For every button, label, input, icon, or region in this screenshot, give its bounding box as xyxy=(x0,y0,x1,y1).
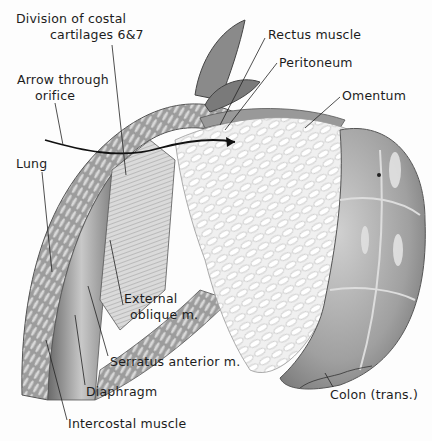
label-division-costal-line2: cartilages 6&7 xyxy=(50,28,144,42)
label-diaphragm: Diaphragm xyxy=(86,385,157,399)
label-peritoneum: Peritoneum xyxy=(279,56,353,70)
label-external-oblique-line1: External xyxy=(124,292,177,306)
label-arrow-orifice-line2: orifice xyxy=(35,89,75,103)
label-rectus-muscle: Rectus muscle xyxy=(268,28,361,42)
illustration-artwork xyxy=(0,0,432,441)
label-colon: Colon (trans.) xyxy=(330,388,418,402)
label-omentum: Omentum xyxy=(342,89,406,103)
label-external-oblique-line2: oblique m. xyxy=(130,308,198,322)
label-lung: Lung xyxy=(16,157,47,171)
anatomical-figure: Division of costal cartilages 6&7 Arrow … xyxy=(0,0,432,441)
label-serratus-anterior: Serratus anterior m. xyxy=(110,355,240,369)
label-intercostal-muscle: Intercostal muscle xyxy=(68,417,186,431)
label-division-costal-line1: Division of costal xyxy=(16,12,126,26)
label-arrow-orifice-line1: Arrow through xyxy=(17,73,109,87)
